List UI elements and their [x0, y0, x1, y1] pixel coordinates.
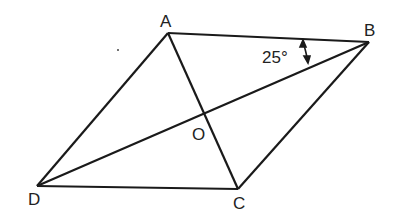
angle-arrow-icon [300, 40, 310, 63]
diagonal-ac [168, 33, 238, 189]
side-cd [37, 186, 238, 189]
vertex-label-a: A [160, 12, 172, 31]
side-da [37, 33, 168, 186]
stray-dot [117, 49, 119, 51]
vertex-label-b: B [364, 21, 375, 40]
side-ab [168, 33, 369, 42]
diagonal-bd [37, 42, 369, 186]
parallelogram-diagram: A B C D O 25° [0, 0, 396, 219]
side-bc [238, 42, 369, 189]
vertex-label-c: C [233, 194, 245, 213]
angle-label: 25° [262, 48, 288, 67]
center-label-o: O [192, 125, 205, 144]
vertex-label-d: D [28, 190, 40, 209]
